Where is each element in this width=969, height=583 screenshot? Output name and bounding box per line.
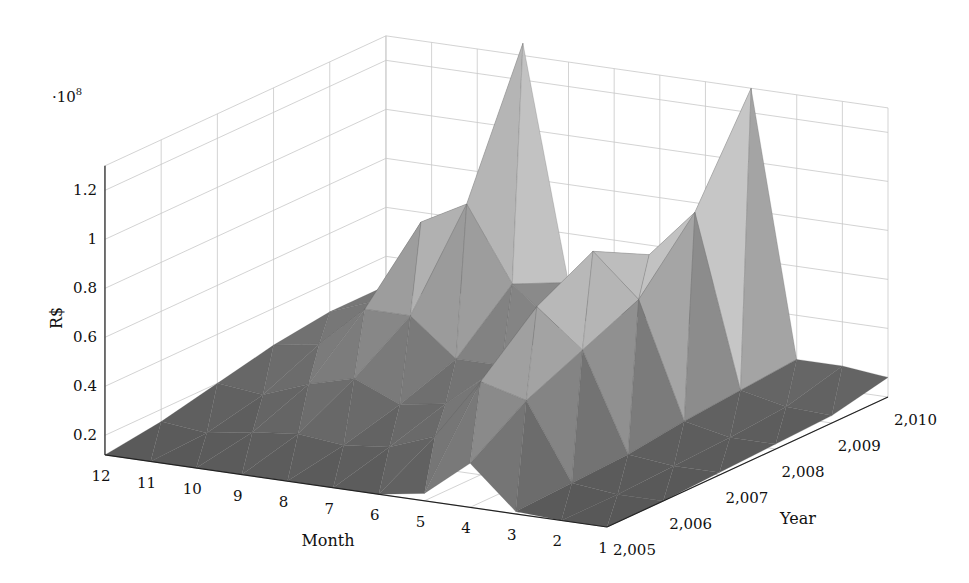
month-tick-label: 1 [598,539,608,557]
year-tick-label: 2,007 [725,489,768,507]
z-axis-ticks: 0.20.40.60.811.2 [73,181,97,444]
month-tick-label: 2 [553,532,563,550]
y-axis-label: Year [779,509,816,528]
month-tick-label: 5 [416,513,426,531]
surface-chart: 0.20.40.60.811.2 121110987654321 2,0052,… [0,0,969,583]
year-tick-label: 2,009 [838,437,881,455]
month-tick-label: 4 [461,519,471,537]
z-tick-label: 0.8 [73,279,97,297]
z-tick-label: 0.6 [73,328,97,346]
x-axis-label: Month [301,531,354,550]
month-tick-label: 3 [507,526,517,544]
year-tick-label: 2,005 [613,541,656,559]
z-tick-label: 1.2 [73,181,97,199]
month-tick-label: 10 [183,480,202,498]
z-axis-label: R$ [47,307,66,329]
year-tick-label: 2,008 [782,463,825,481]
month-tick-label: 9 [233,487,243,505]
z-tick-label: 0.2 [73,426,97,444]
month-tick-label: 12 [91,467,110,485]
z-tick-label: 0.4 [73,377,97,395]
year-tick-label: 2,010 [894,411,937,429]
z-multiplier: ·108 [52,86,82,106]
month-tick-label: 11 [137,474,156,492]
year-tick-label: 2,006 [669,515,712,533]
month-tick-label: 8 [279,493,289,511]
month-tick-label: 7 [324,500,334,518]
month-tick-label: 6 [370,506,380,524]
z-tick-label: 1 [87,230,97,248]
